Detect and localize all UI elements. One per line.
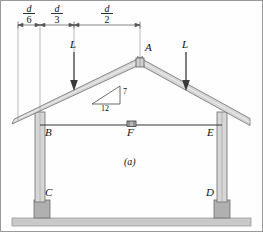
dim-d2-numerator: d [99, 4, 115, 13]
dim-d2-denominator: 2 [99, 14, 115, 25]
joint-label-a: A [145, 41, 152, 53]
dim-label-d3: d 3 [49, 4, 65, 25]
slope-run-label: 12 [101, 104, 109, 113]
truss-figure: d 6 d 3 d 2 L L A B F E C D 7 12 (a) [0, 0, 263, 232]
joint-label-e: E [207, 126, 214, 138]
slope-rise-label: 7 [123, 87, 127, 96]
dim-label-d2: d 2 [99, 4, 115, 25]
footing-left [34, 200, 50, 218]
joint-label-d: D [206, 186, 214, 198]
dim-label-d6: d 6 [21, 4, 37, 25]
joint-label-b: B [45, 126, 52, 138]
dim-d3-numerator: d [49, 4, 65, 13]
truss-diagram-canvas [0, 0, 263, 232]
dim-d6-numerator: d [21, 4, 37, 13]
dim-d3-denominator: 3 [49, 14, 65, 25]
footing-right [214, 200, 230, 218]
figure-caption: (a) [124, 156, 136, 167]
load-label-right: L [182, 38, 188, 50]
dim-d6-denominator: 6 [21, 14, 37, 25]
joint-label-f: F [127, 126, 134, 138]
ground-slab [12, 218, 251, 226]
joint-label-c: C [45, 186, 52, 198]
load-label-left: L [70, 38, 76, 50]
